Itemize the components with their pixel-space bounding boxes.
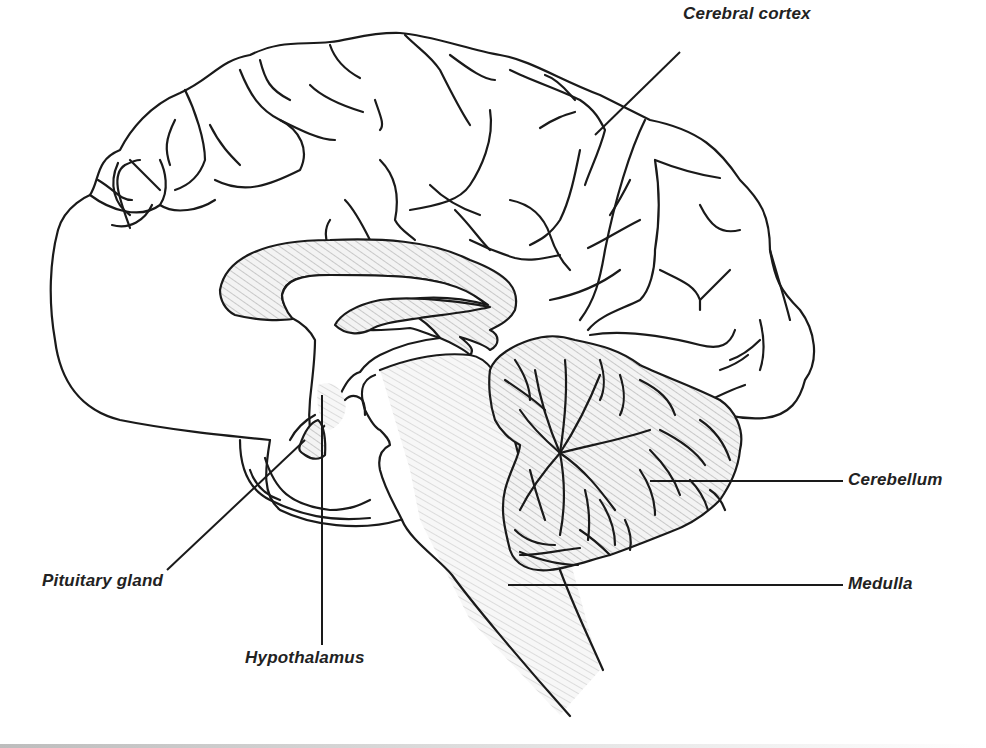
leader-pituitary [167, 440, 305, 570]
brain-diagram [0, 0, 986, 748]
pituitary-gland [290, 415, 325, 459]
cerebellum [489, 336, 741, 570]
label-medulla: Medulla [848, 574, 913, 594]
leader-cerebral-cortex [595, 52, 680, 135]
label-pituitary-gland: Pituitary gland [42, 571, 163, 591]
label-hypothalamus: Hypothalamus [245, 648, 365, 668]
label-cerebellum: Cerebellum [848, 470, 943, 490]
label-cerebral-cortex: Cerebral cortex [683, 4, 811, 24]
bottom-edge [0, 744, 986, 748]
